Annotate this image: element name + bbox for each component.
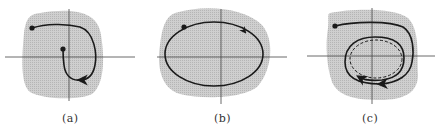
panel-c xyxy=(307,8,435,104)
start-point-c xyxy=(332,23,337,28)
panel-label-b: (b) xyxy=(214,112,231,125)
panel-label-a: (a) xyxy=(62,112,79,125)
start-point-b xyxy=(181,24,186,29)
start-point-a xyxy=(29,25,34,30)
panel-label-c: (c) xyxy=(362,112,378,125)
equilibrium-point-a xyxy=(60,46,65,51)
panel-a xyxy=(5,9,135,101)
panel-b xyxy=(157,8,287,104)
